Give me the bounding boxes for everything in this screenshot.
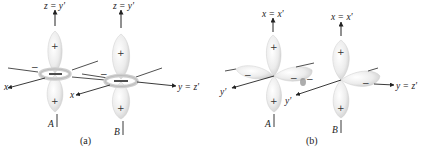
orbital-a-B: z = y' y = z' x + + − B	[69, 1, 200, 137]
orbital-diagram: z = y' x + + − A z = y'	[0, 0, 428, 151]
axis-label-z-yprime-A: z = y'	[43, 1, 66, 11]
x-axis-arrow	[76, 85, 110, 95]
orbital-label-B: B	[332, 125, 338, 135]
lower-lobe	[267, 76, 282, 112]
sign-plus-upper: +	[51, 41, 59, 51]
axis-line	[136, 68, 162, 77]
axis-label-y-zprime-b: y = z'	[395, 81, 418, 91]
sign-plus-lower: +	[51, 96, 59, 106]
sign-minus-left: −	[244, 70, 252, 80]
axis-label-x-A: x	[3, 82, 9, 92]
axis-label-y-zprime-a: y = z'	[177, 82, 200, 92]
panel-b: x = x' y' + + − − A x = x' y =	[219, 9, 418, 147]
sign-minus-right: −	[290, 73, 298, 83]
panel-a: z = y' x + + − A z = y'	[3, 1, 200, 147]
orbital-label-A: A	[47, 119, 54, 129]
sign-minus-ring: −	[100, 69, 108, 79]
caption-a: (a)	[80, 135, 91, 147]
orbital-label-A: A	[264, 119, 271, 129]
axis-label-z-yprime-B: z = y'	[112, 1, 135, 11]
sign-plus-lower: +	[270, 96, 278, 106]
sign-plus-upper: +	[270, 42, 278, 52]
x-axis-arrow	[8, 78, 45, 88]
sign-plus-lower: +	[337, 103, 345, 113]
axis-line	[296, 63, 314, 67]
sign-minus-left: −	[306, 74, 314, 84]
axis-line	[368, 68, 378, 71]
axis-label-x-B: x	[69, 90, 75, 100]
axis-line	[72, 61, 98, 70]
caption-b: (b)	[306, 135, 318, 147]
orbital-b-A: x = x' y' + + − − A	[219, 9, 314, 129]
sign-plus-lower: +	[117, 103, 125, 113]
axis-label-yprime-B: y'	[284, 96, 292, 106]
orbital-a-A: z = y' x + + − A	[3, 1, 105, 129]
axis-label-x-xprime-B: x = x'	[330, 12, 354, 22]
y-axis-arrow	[374, 84, 394, 85]
y-axis-arrow	[137, 82, 176, 86]
axis-label-yprime-A: y'	[219, 87, 227, 97]
sign-minus-right: −	[362, 78, 370, 88]
upper-lobe	[48, 31, 62, 73]
sign-plus-upper: +	[117, 48, 125, 58]
left-lobe	[236, 66, 274, 79]
sign-plus-upper: +	[337, 47, 345, 57]
axis-line	[225, 69, 236, 71]
upper-lobe	[333, 40, 350, 80]
orbital-label-B: B	[114, 127, 120, 137]
axis-label-x-xprime-A: x = x'	[261, 9, 285, 19]
sign-minus-ring: −	[31, 62, 39, 72]
